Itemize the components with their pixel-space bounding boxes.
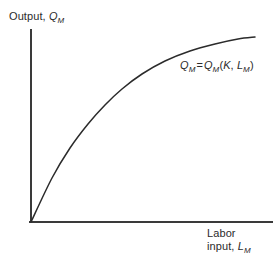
equation-lhs-variable: Q <box>180 59 189 71</box>
y-axis-label-text: Output, <box>9 10 49 22</box>
equation-rhs-variable: Q <box>204 59 213 71</box>
x-axis-label: Laborinput, LM <box>207 227 251 253</box>
x-axis-label-subscript: M <box>244 246 251 255</box>
curve-equation-annotation: QM=QM(K, LM) <box>180 59 254 72</box>
equation-argument-labor-subscript: M <box>243 65 250 74</box>
production-function-figure: Output, QM QM=QM(K, LM) Laborinput, LM <box>0 0 277 270</box>
y-axis-label-variable: Q <box>49 10 58 22</box>
close-paren: ) <box>250 59 254 71</box>
x-axis-label-line2: input, LM <box>207 240 251 253</box>
x-axis-label-text: input, <box>207 240 238 252</box>
x-axis-label-line1: Labor <box>207 227 251 240</box>
y-axis-label-subscript: M <box>58 16 65 25</box>
equals-sign: = <box>195 59 204 71</box>
equation-argument-capital: K <box>223 59 230 71</box>
y-axis-label: Output, QM <box>9 10 64 23</box>
